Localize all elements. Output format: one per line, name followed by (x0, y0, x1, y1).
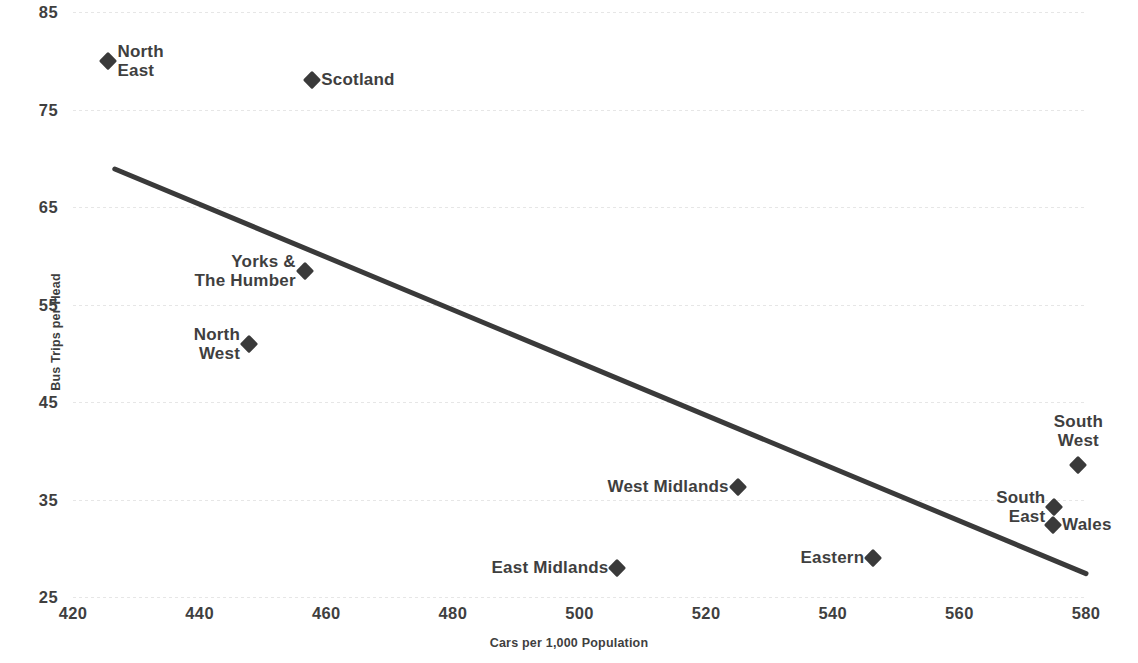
x-tick-label: 440 (165, 604, 235, 623)
gridline (73, 110, 1086, 111)
data-point-label: Scotland (321, 71, 394, 90)
x-tick-label: 500 (545, 604, 615, 623)
data-point-label: Yorks & The Humber (195, 252, 296, 290)
gridline (73, 597, 1086, 598)
data-point-label: West Midlands (607, 477, 728, 496)
data-point-label: South West (1038, 412, 1118, 450)
data-point-label: East Midlands (492, 558, 609, 577)
x-tick-label: 580 (1051, 604, 1121, 623)
x-tick-label: 520 (671, 604, 741, 623)
gridline (73, 402, 1086, 403)
y-axis-title: Bus Trips per Head (49, 273, 63, 391)
data-point-label: North East (117, 42, 163, 80)
y-tick-label: 65 (12, 198, 58, 217)
gridline (73, 500, 1086, 501)
y-tick-label: 55 (12, 295, 58, 314)
y-tick-label: 45 (12, 393, 58, 412)
scatter-chart: Bus Trips per Head Cars per 1,000 Popula… (0, 0, 1138, 663)
gridline (73, 12, 1086, 13)
x-tick-label: 480 (418, 604, 488, 623)
x-tick-label: 540 (798, 604, 868, 623)
data-point-label: South East (996, 488, 1045, 526)
x-tick-label: 560 (924, 604, 994, 623)
y-tick-label: 85 (12, 3, 58, 22)
data-point-label: Wales (1062, 515, 1112, 534)
gridline (73, 207, 1086, 208)
plot-area (73, 12, 1086, 597)
data-point-label: North West (194, 324, 240, 362)
gridline (73, 305, 1086, 306)
x-axis-title: Cars per 1,000 Population (0, 636, 1138, 650)
data-point-label: Eastern (801, 548, 865, 567)
x-tick-label: 420 (38, 604, 108, 623)
y-tick-label: 75 (12, 100, 58, 119)
x-tick-label: 460 (291, 604, 361, 623)
y-tick-label: 35 (12, 490, 58, 509)
